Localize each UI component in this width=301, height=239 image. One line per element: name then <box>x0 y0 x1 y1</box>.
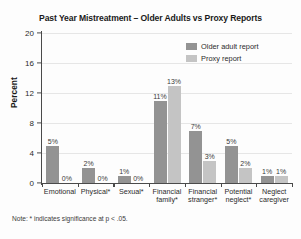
bar-value-label: 5% <box>226 138 236 145</box>
y-tick-label: 20 <box>8 29 34 38</box>
legend-label: Proxy report <box>201 54 241 63</box>
bar-value-label: 1% <box>276 168 286 175</box>
bar-value-label: 0% <box>133 175 143 182</box>
x-tick-mark <box>149 183 150 187</box>
y-tick-mark <box>37 92 42 93</box>
y-tick-label: 16 <box>8 59 34 68</box>
y-tick-mark <box>37 182 42 183</box>
bar <box>225 146 238 184</box>
x-tick-mark <box>292 183 293 187</box>
bar <box>118 176 131 184</box>
legend-swatch-icon <box>186 55 197 62</box>
x-category-label: Neglect caregiver <box>259 188 289 205</box>
bar-value-label: 5% <box>48 138 58 145</box>
bar <box>46 146 59 184</box>
gridline <box>42 33 292 34</box>
bar <box>239 168 252 183</box>
bar <box>189 131 202 184</box>
x-category-label: Potential neglect* <box>224 188 252 205</box>
y-tick-mark <box>37 152 42 153</box>
chart-figure: Past Year Mistreatment – Older Adults vs… <box>0 0 301 239</box>
bar-value-label: 13% <box>167 78 181 85</box>
y-tick-label: 4 <box>8 149 34 158</box>
x-tick-mark <box>113 183 114 187</box>
bar-value-label: 2% <box>84 160 94 167</box>
x-tick-mark <box>221 183 222 187</box>
bar <box>82 168 95 183</box>
legend-item-proxy-report: Proxy report <box>186 53 259 63</box>
bar <box>203 161 216 184</box>
chart-legend: Older adult report Proxy report <box>186 41 259 65</box>
bar <box>168 86 181 184</box>
bar-value-label: 1% <box>119 168 129 175</box>
bar-value-label: 3% <box>205 153 215 160</box>
x-tick-mark <box>256 183 257 187</box>
bar-value-label: 7% <box>191 123 201 130</box>
y-tick-label: 0 <box>8 179 34 188</box>
x-category-label: Sexual* <box>119 188 144 196</box>
x-tick-mark <box>42 183 43 187</box>
x-tick-mark <box>78 183 79 187</box>
x-category-label: Emotional <box>44 188 76 196</box>
x-tick-mark <box>185 183 186 187</box>
y-tick-label: 8 <box>8 119 34 128</box>
bar-value-label: 0% <box>98 175 108 182</box>
x-category-label: Physical* <box>81 188 111 196</box>
legend-label: Older adult report <box>201 42 259 51</box>
bar-value-label: 11% <box>153 93 167 100</box>
bar-value-label: 0% <box>62 175 72 182</box>
bar-value-label: 1% <box>262 168 272 175</box>
y-tick-mark <box>37 32 42 33</box>
x-category-label: Financial stranger* <box>188 188 217 205</box>
legend-swatch-icon <box>186 43 197 50</box>
bar <box>154 101 167 184</box>
y-tick-mark <box>37 122 42 123</box>
x-category-label: Financial family* <box>153 188 182 205</box>
y-tick-mark <box>37 62 42 63</box>
chart-footnote: Note: * indicates significance at p < .0… <box>12 215 128 222</box>
bar <box>275 176 288 184</box>
bar <box>261 176 274 184</box>
bar-value-label: 2% <box>240 160 250 167</box>
chart-title: Past Year Mistreatment – Older Adults vs… <box>0 13 301 23</box>
legend-item-older-adult-report: Older adult report <box>186 41 259 51</box>
y-tick-label: 12 <box>8 89 34 98</box>
